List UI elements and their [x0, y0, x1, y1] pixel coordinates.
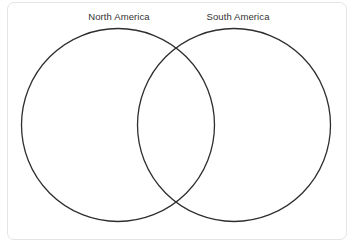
venn-label-north-america: North America [88, 11, 150, 23]
venn-diagram-stage: North America South America [0, 0, 355, 247]
venn-diagram-svg [0, 0, 355, 247]
venn-label-south-america: South America [206, 11, 269, 23]
venn-circle-north-america[interactable] [22, 29, 215, 222]
venn-circle-south-america[interactable] [138, 29, 331, 222]
